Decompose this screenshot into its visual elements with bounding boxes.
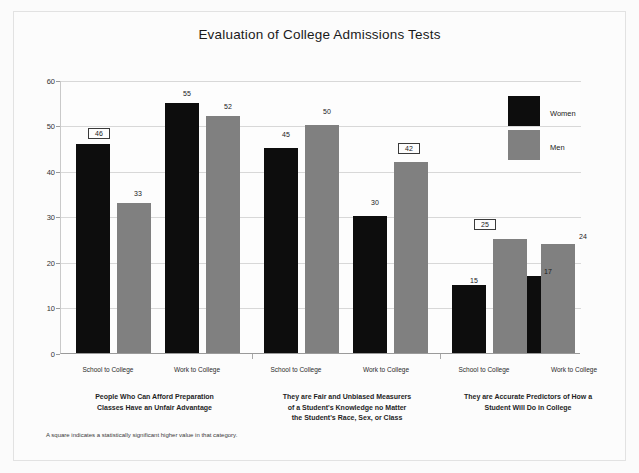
- bar-g2-work-men[interactable]: [394, 162, 428, 353]
- bar-value-g1-school-women: 46: [88, 128, 110, 139]
- group-caption-3-line-2: Student Will Do in College: [442, 403, 614, 414]
- bar-g2-work-women[interactable]: [353, 216, 387, 353]
- bar-g1-school-men[interactable]: [117, 203, 151, 353]
- y-tick-label-10: 10: [29, 304, 55, 313]
- bar-value-g3-work-women: 17: [538, 268, 558, 275]
- group-caption-2-line-3: the Student's Race, Sex, or Class: [252, 413, 442, 424]
- group-caption-3-line-1: They are Accurate Predictors of How a: [442, 392, 614, 403]
- legend-item-men[interactable]: Men: [508, 130, 603, 164]
- bar-g2-school-men[interactable]: [305, 125, 339, 353]
- bar-value-g1-work-women: 55: [177, 90, 197, 97]
- bar-g2-school-women[interactable]: [264, 148, 298, 353]
- bar-value-g3-school-women: 15: [464, 277, 484, 284]
- footnote: A square indicates a statistically signi…: [46, 432, 237, 438]
- y-tick-label-40: 40: [29, 168, 55, 177]
- chart-page: Evaluation of College Admissions Tests 6…: [0, 0, 639, 473]
- bar-value-g1-school-men: 33: [128, 190, 148, 197]
- legend-item-women[interactable]: Women: [508, 96, 603, 130]
- gridline-60: [61, 81, 581, 82]
- group-caption-2-line-2: of a Student's Knowledge no Matter: [252, 403, 442, 414]
- legend-swatch-men-icon: [508, 130, 540, 160]
- bar-value-g2-work-men: 42: [398, 143, 420, 154]
- y-tick-label-60: 60: [29, 77, 55, 86]
- plot-area: [60, 81, 580, 354]
- bar-g1-school-women[interactable]: [76, 144, 110, 353]
- y-tick-label-50: 50: [29, 122, 55, 131]
- y-tick-label-0: 0: [29, 350, 55, 359]
- x-label-g3-school: School to College: [453, 366, 515, 373]
- group-caption-1: People Who Can Afford Preparation Classe…: [72, 392, 237, 413]
- group-caption-1-line-2: Classes Have an Unfair Advantage: [72, 403, 237, 414]
- bar-value-g3-school-men: 25: [474, 219, 496, 230]
- bar-value-g2-school-men: 50: [317, 108, 337, 115]
- bar-g1-work-women[interactable]: [165, 103, 199, 353]
- x-label-g2-school: School to College: [265, 366, 327, 373]
- bar-value-g2-school-women: 45: [276, 131, 296, 138]
- x-label-g1-school: School to College: [77, 366, 139, 373]
- y-tick-label-20: 20: [29, 259, 55, 268]
- x-label-g1-work: Work to College: [166, 366, 228, 373]
- bar-g3-school-men[interactable]: [493, 239, 527, 353]
- group-caption-3: They are Accurate Predictors of How a St…: [442, 392, 614, 413]
- legend: Women Men: [508, 96, 603, 164]
- x-label-g2-work: Work to College: [355, 366, 417, 373]
- page-title: Evaluation of College Admissions Tests: [0, 27, 639, 42]
- bar-g1-work-men[interactable]: [206, 116, 240, 353]
- x-axis-group-separator-1: [252, 354, 253, 359]
- group-caption-2-line-1: They are Fair and Unbiased Measurers: [252, 392, 442, 403]
- x-axis-group-separator-2: [440, 354, 441, 359]
- x-label-g3-work: Work to College: [543, 366, 605, 373]
- legend-label-women: Women: [550, 109, 576, 118]
- bar-value-g3-work-men: 24: [573, 233, 593, 240]
- bar-g3-school-women[interactable]: [452, 285, 486, 353]
- group-caption-2: They are Fair and Unbiased Measurers of …: [252, 392, 442, 424]
- bar-value-g1-work-men: 52: [218, 103, 238, 110]
- bar-value-g2-work-women: 30: [365, 199, 385, 206]
- y-tick-label-30: 30: [29, 213, 55, 222]
- y-tick-mark-0: [56, 354, 60, 355]
- legend-swatch-women-icon: [508, 96, 540, 126]
- legend-label-men: Men: [550, 143, 565, 152]
- bar-g3-work-men[interactable]: [541, 244, 575, 353]
- group-caption-1-line-1: People Who Can Afford Preparation: [72, 392, 237, 403]
